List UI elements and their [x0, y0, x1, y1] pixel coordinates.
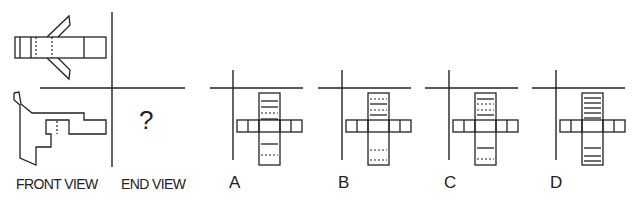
front-view-drawing	[14, 92, 106, 165]
orthographic-drawing	[0, 0, 639, 204]
option-c-label[interactable]: C	[444, 173, 456, 193]
option-b-drawing[interactable]	[318, 70, 411, 165]
option-c-drawing[interactable]	[425, 70, 518, 165]
front-view-label: FRONT VIEW	[16, 176, 98, 192]
end-view-placeholder: ?	[139, 105, 153, 136]
end-view-label: END VIEW	[121, 176, 185, 192]
option-a-drawing[interactable]	[210, 70, 303, 165]
option-a-label[interactable]: A	[229, 173, 240, 193]
option-d-drawing[interactable]	[532, 70, 625, 165]
top-view-drawing	[15, 16, 106, 79]
option-b-label[interactable]: B	[338, 173, 349, 193]
projection-axes	[40, 12, 185, 167]
option-d-label[interactable]: D	[550, 173, 562, 193]
